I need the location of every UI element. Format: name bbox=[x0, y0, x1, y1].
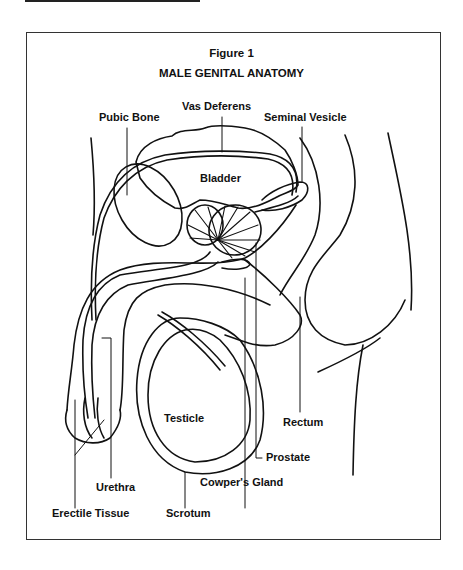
urethra-upper bbox=[83, 252, 210, 418]
buttock-outline bbox=[388, 133, 412, 310]
label-seminal-vesicle: Seminal Vesicle bbox=[264, 111, 347, 123]
prostate-radial-lines bbox=[188, 206, 260, 258]
glans-shape bbox=[66, 410, 121, 443]
pointer-lines bbox=[75, 117, 302, 508]
penis-top-outline bbox=[67, 205, 296, 410]
pubic-bone-shape bbox=[100, 152, 196, 258]
thigh-inner bbox=[318, 338, 380, 372]
rectum-outline bbox=[280, 138, 320, 295]
label-urethra: Urethra bbox=[96, 481, 135, 493]
label-bladder: Bladder bbox=[200, 172, 241, 184]
label-erectile-tissue: Erectile Tissue bbox=[52, 507, 129, 519]
label-scrotum: Scrotum bbox=[166, 507, 211, 519]
testicle-shape bbox=[148, 329, 250, 462]
label-prostate: Prostate bbox=[266, 451, 310, 463]
label-rectum: Rectum bbox=[283, 416, 323, 428]
bladder-shape bbox=[136, 126, 298, 209]
label-pubic-bone: Pubic Bone bbox=[99, 111, 160, 123]
vas-deferens-outer bbox=[91, 151, 297, 320]
urethra-pointer bbox=[102, 338, 111, 478]
perineum-curve bbox=[225, 260, 301, 346]
abdomen-outline bbox=[91, 138, 94, 235]
prostate-pointer bbox=[256, 243, 262, 458]
leg-outline bbox=[353, 345, 363, 475]
label-cowpers-gland: Cowper's Gland bbox=[200, 476, 283, 488]
label-vas-deferens: Vas Deferens bbox=[182, 100, 251, 112]
label-testicle: Testicle bbox=[164, 412, 204, 424]
anal-canal-outline bbox=[305, 135, 405, 345]
seminal-vesicle-shape bbox=[262, 182, 308, 211]
